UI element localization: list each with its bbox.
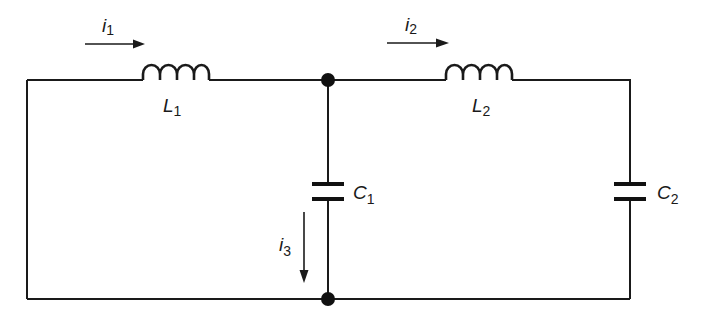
arrow-down-icon	[300, 270, 309, 283]
inductor-l2: L2	[446, 65, 512, 119]
capacitor-c2-label: C2	[657, 182, 679, 207]
wire-top-right	[512, 80, 630, 184]
current-i3-label: i3	[279, 234, 291, 259]
capacitor-c2: C2	[614, 182, 679, 207]
junction-node-top	[321, 73, 335, 87]
current-arrow-i1: i1	[85, 15, 145, 49]
arrow-right-icon	[436, 39, 449, 48]
inductor-l2-coil	[446, 65, 512, 80]
inductor-l2-label: L2	[472, 95, 491, 119]
inductor-l1: L1	[143, 65, 209, 119]
current-arrow-i2: i2	[387, 14, 449, 48]
capacitor-c1: C1	[312, 182, 375, 207]
current-i1-label: i1	[102, 15, 114, 38]
current-i2-label: i2	[405, 14, 417, 37]
arrow-right-icon	[133, 40, 145, 49]
junction-node-bottom	[321, 292, 335, 306]
circuit-diagram: L1 L2 C1 C2 i1 i2 i3	[0, 0, 703, 328]
current-arrow-i3: i3	[279, 212, 309, 283]
inductor-l1-label: L1	[163, 95, 182, 119]
wires	[27, 80, 630, 299]
capacitor-c1-label: C1	[353, 182, 375, 207]
inductor-l1-coil	[143, 65, 209, 80]
